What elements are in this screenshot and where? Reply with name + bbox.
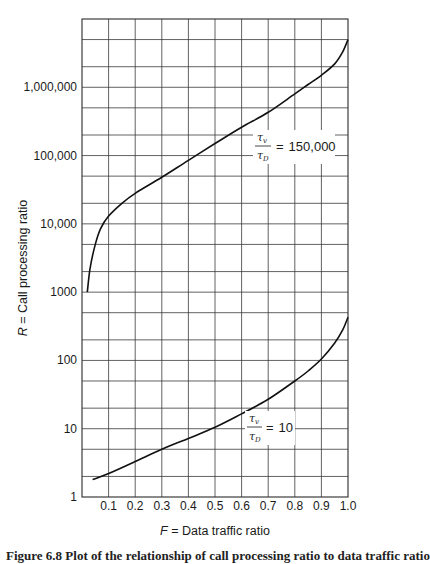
y-axis-ticks: 110100100010,000100,0001,000,000 [24, 80, 78, 504]
y-tick-label: 1,000,000 [24, 80, 78, 94]
annotation-lower-value: 10 [279, 420, 293, 435]
x-tick-label: 1.0 [340, 499, 357, 513]
x-axis-label: F = Data traffic ratio [160, 524, 270, 538]
x-tick-label: 0.3 [153, 499, 170, 513]
x-tick-label: 0.6 [233, 499, 250, 513]
annotation-upper: τv τD =150,000 [253, 130, 336, 164]
x-tick-label: 0.2 [127, 499, 144, 513]
x-tick-label: 0.4 [180, 499, 197, 513]
grid-lines [82, 19, 348, 497]
y-tick-label: 1000 [50, 285, 77, 299]
annotation-upper-value: 150,000 [289, 139, 336, 154]
y-axis-label: R = Call processing ratio [16, 200, 30, 337]
annotation-lower: τv τD =10 [245, 411, 295, 445]
y-tick-label: 10,000 [40, 217, 77, 231]
y-tick-label: 100 [57, 353, 77, 367]
x-tick-label: 0.5 [207, 499, 224, 513]
figure-caption: Figure 6.8 Plot of the relationship of c… [6, 548, 430, 564]
curve-ratio-10 [93, 317, 348, 479]
x-tick-label: 0.7 [260, 499, 277, 513]
y-tick-label: 10 [64, 422, 78, 436]
x-axis-ticks: 0.10.20.30.40.50.60.70.80.91.0 [100, 499, 356, 513]
y-tick-label: 1 [70, 490, 77, 504]
curve-ratio-150000 [87, 40, 348, 293]
x-tick-label: 0.8 [286, 499, 303, 513]
svg-text:=10: =10 [266, 420, 293, 435]
x-tick-label: 0.1 [100, 499, 117, 513]
x-tick-label: 0.9 [313, 499, 330, 513]
y-tick-label: 100,000 [34, 149, 78, 163]
